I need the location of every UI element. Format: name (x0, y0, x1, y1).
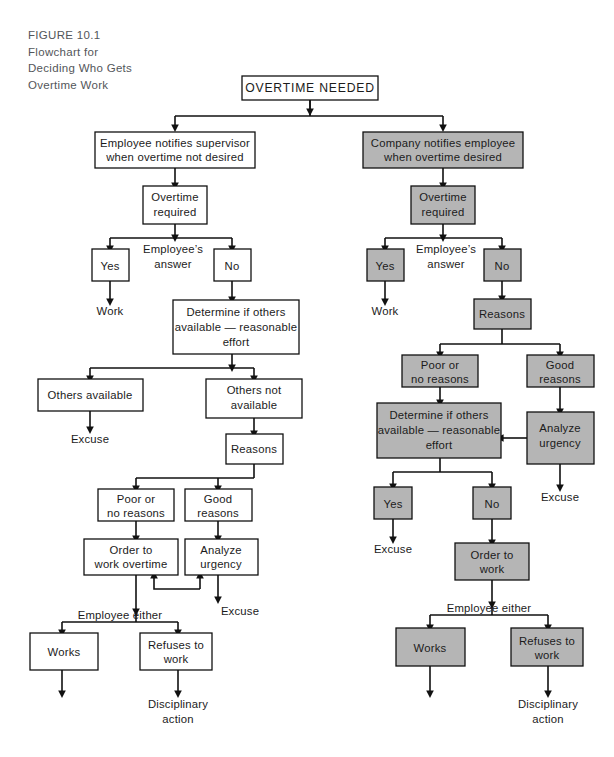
label-right-work-text: Work (372, 305, 399, 317)
node-left-determine[interactable]: Determine if others available — reasonab… (173, 300, 299, 354)
node-left-ot-line1: Overtime (151, 191, 198, 203)
caption-line-1: FIGURE 10.1 (28, 27, 198, 44)
node-right-order-line1: Order to (470, 549, 513, 561)
node-right-works-label: Works (414, 642, 447, 654)
label-right-excuse-urgency: Excuse (541, 491, 579, 503)
node-left-reasons[interactable]: Reasons (226, 434, 283, 464)
node-left-determine-line3: effort (223, 336, 250, 348)
node-right-start[interactable]: Company notifies employee when overtime … (363, 132, 523, 168)
node-left-refuses[interactable]: Refuses to work (140, 633, 212, 670)
label-left-work: Work (97, 305, 124, 317)
node-left-yes[interactable]: Yes (92, 249, 129, 281)
node-right-no2[interactable]: No (473, 487, 511, 519)
node-right-analyze-line1: Analyze (539, 422, 581, 434)
label-right-either-text: Employee either (447, 602, 532, 614)
node-right-yes2[interactable]: Yes (374, 487, 412, 519)
node-right-refuses-line1: Refuses to (519, 635, 575, 647)
node-left-determine-line2: available — reasonable (175, 321, 297, 333)
node-left-start-line1: Employee notifies supervisor (100, 137, 250, 149)
node-right-good-reasons[interactable]: Good reasons (527, 355, 594, 387)
node-left-yes-label: Yes (100, 260, 119, 272)
node-left-good-line1: Good (204, 493, 232, 505)
label-right-employee-either: Employee either (447, 602, 532, 614)
node-right-determine-line1: Determine if others (389, 409, 488, 421)
node-left-analyze-line1: Analyze (200, 544, 242, 556)
node-right-no[interactable]: No (484, 249, 521, 281)
label-left-disc-line2: action (162, 713, 193, 725)
node-right-poor-reasons[interactable]: Poor or no reasons (402, 355, 478, 387)
caption-line-3: Deciding Who Gets (28, 60, 198, 77)
node-left-determine-line1: Determine if others (186, 306, 285, 318)
caption-line-4: Overtime Work (28, 77, 198, 94)
node-right-analyze-urgency[interactable]: Analyze urgency (527, 412, 594, 464)
node-right-yes[interactable]: Yes (367, 249, 404, 281)
node-left-overtime-required[interactable]: Overtime required (143, 186, 207, 224)
node-left-analyze-line2: urgency (200, 558, 242, 570)
node-left-order-to-work[interactable]: Order to work overtime (84, 539, 178, 575)
node-left-poor-reasons[interactable]: Poor or no reasons (98, 489, 174, 521)
flowchart-svg: OVERTIME NEEDED Employee notifies superv… (0, 0, 614, 757)
label-right-disc-line1: Disciplinary (518, 698, 578, 710)
node-right-overtime-required[interactable]: Overtime required (411, 186, 475, 224)
label-right-excuse-urg-text: Excuse (541, 491, 579, 503)
node-right-refuses-line2: work (534, 649, 560, 661)
figure-caption: FIGURE 10.1 Flowchart for Deciding Who G… (28, 27, 198, 93)
label-right-disciplinary: Disciplinary action (518, 698, 578, 725)
label-right-answer-line2: answer (427, 258, 465, 270)
node-left-reasons-label: Reasons (231, 443, 277, 455)
node-left-poor-line2: no reasons (107, 507, 165, 519)
conn-l-feedback-left (154, 575, 200, 589)
node-right-refuses[interactable]: Refuses to work (511, 628, 583, 666)
node-right-determine[interactable]: Determine if others available — reasonab… (377, 403, 501, 458)
node-left-good-reasons[interactable]: Good reasons (185, 489, 252, 521)
node-right-ot-line2: required (421, 206, 464, 218)
node-right-works[interactable]: Works (396, 628, 465, 666)
node-right-no-label: No (495, 260, 510, 272)
label-left-disc-line1: Disciplinary (148, 698, 208, 710)
node-left-refuses-line1: Refuses to (148, 639, 204, 651)
node-right-poor-line2: no reasons (411, 373, 469, 385)
node-left-poor-line1: Poor or (117, 493, 155, 505)
node-left-no[interactable]: No (214, 249, 251, 281)
node-right-reasons[interactable]: Reasons (474, 299, 531, 329)
node-overtime-needed-label: OVERTIME NEEDED (245, 81, 375, 95)
node-left-others-not-line2: available (231, 399, 277, 411)
node-left-refuses-line2: work (163, 653, 189, 665)
node-overtime-needed[interactable]: OVERTIME NEEDED (242, 76, 378, 100)
label-right-employee-answer: Employee’s answer (416, 243, 476, 270)
node-left-works[interactable]: Works (30, 633, 98, 670)
node-right-no2-label: No (485, 498, 500, 510)
label-left-excuse-urgency: Excuse (221, 605, 259, 617)
label-left-disciplinary: Disciplinary action (148, 698, 208, 725)
node-right-order-line2: work (479, 563, 505, 575)
label-left-employee-answer: Employee’s answer (143, 243, 203, 270)
label-right-work: Work (372, 305, 399, 317)
label-right-excuse-yes2: Excuse (374, 543, 412, 555)
node-left-order-line1: Order to (109, 544, 152, 556)
figure-container: FIGURE 10.1 Flowchart for Deciding Who G… (0, 0, 614, 757)
node-right-order-to-work[interactable]: Order to work (455, 543, 529, 580)
node-right-analyze-line2: urgency (539, 437, 581, 449)
node-left-others-available[interactable]: Others available (38, 379, 143, 411)
node-right-determine-line2: available — reasonable (378, 424, 500, 436)
node-left-works-label: Works (48, 646, 81, 658)
node-right-determine-line3: effort (426, 439, 453, 451)
label-left-excuse-urg-text: Excuse (221, 605, 259, 617)
label-right-disc-line2: action (532, 713, 563, 725)
label-left-answer-line2: answer (154, 258, 192, 270)
node-left-others-not-available[interactable]: Others not available (206, 379, 302, 418)
node-right-yes2-label: Yes (383, 498, 402, 510)
node-right-good-line2: reasons (539, 373, 581, 385)
label-left-answer-line1: Employee’s (143, 243, 203, 255)
node-right-ot-line1: Overtime (419, 191, 466, 203)
node-left-good-line2: reasons (197, 507, 239, 519)
node-right-start-line2: when overtime desired (383, 151, 502, 163)
node-left-others-avail-label: Others available (48, 389, 133, 401)
label-right-answer-line1: Employee’s (416, 243, 476, 255)
node-left-ot-line2: required (153, 206, 196, 218)
node-left-start[interactable]: Employee notifies supervisor when overti… (95, 132, 255, 168)
node-left-analyze-urgency[interactable]: Analyze urgency (185, 539, 258, 575)
label-left-work-text: Work (97, 305, 124, 317)
node-left-others-not-line1: Others not (227, 384, 282, 396)
label-left-employee-either: Employee either (78, 609, 163, 621)
